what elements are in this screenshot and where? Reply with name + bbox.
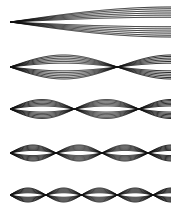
mode-groups [10, 7, 171, 202]
mode-3-shape [10, 100, 171, 119]
mode-1-shape [10, 7, 171, 37]
mode-shapes-diagram [0, 0, 180, 219]
mode-4-shape [10, 145, 171, 161]
mode-5-shape [10, 188, 171, 202]
mode-2-shape [10, 55, 171, 79]
mode-shapes-canvas [0, 0, 180, 219]
